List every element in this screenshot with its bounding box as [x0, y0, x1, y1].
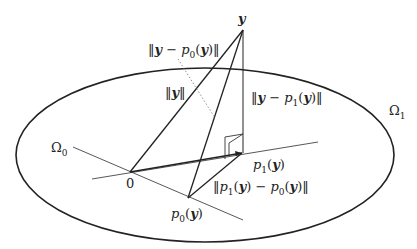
label-norm-y-p0: ‖y − p0(y)‖ [148, 43, 220, 60]
label-origin: 0 [126, 177, 134, 190]
omega1-ellipse [16, 68, 394, 242]
label-omega1: Ω1 [389, 104, 406, 121]
label-y: y [238, 12, 246, 25]
label-p1: p1(y) [253, 158, 285, 175]
label-p0: p0(y) [171, 207, 203, 224]
label-omega0: Ω0 [51, 141, 68, 158]
projection-diagram [0, 0, 417, 249]
label-norm-y-p1: ‖y − p1(y)‖ [251, 91, 323, 108]
label-norm-y: ‖y‖ [165, 86, 186, 99]
label-norm-p1-p0: ‖p1(y) − p0(y)‖ [213, 180, 309, 197]
